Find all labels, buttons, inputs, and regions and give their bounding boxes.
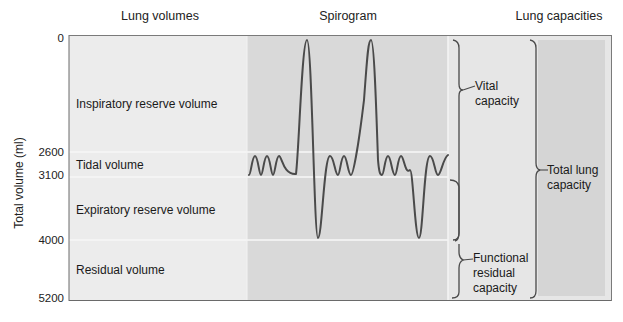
y-tick-5200: 5200 <box>0 292 64 304</box>
vital-capacity-label: Vital capacity <box>475 79 519 109</box>
tlc-line2: capacity <box>547 178 598 193</box>
tidal-volume-label: Tidal volume <box>76 158 144 172</box>
tlc-line1: Total lung <box>547 163 598 178</box>
expiratory-reserve-volume-label: Expiratory reserve volume <box>76 203 215 217</box>
frc-line1: Functional <box>473 251 528 266</box>
lung-capacities-title: Lung capacities <box>516 9 603 23</box>
y-tick-2600: 2600 <box>0 146 64 158</box>
residual-volume-label: Residual volume <box>76 263 165 277</box>
y-tick-0: 0 <box>0 32 64 44</box>
inspiratory-reserve-volume-label: Inspiratory reserve volume <box>76 97 217 111</box>
y-tick-4000: 4000 <box>0 234 64 246</box>
total-lung-capacity-label: Total lung capacity <box>547 163 598 193</box>
lung-volumes-title: Lung volumes <box>121 9 199 23</box>
functional-residual-capacity-label: Functional residual capacity <box>473 251 528 296</box>
vital-capacity-line2: capacity <box>475 94 519 109</box>
spirogram-title: Spirogram <box>319 9 377 23</box>
frc-line3: capacity <box>473 281 528 296</box>
y-tick-3100: 3100 <box>0 169 64 181</box>
vital-capacity-line1: Vital <box>475 79 519 94</box>
y-axis-label: Total volume (ml) <box>12 128 26 238</box>
frc-line2: residual <box>473 266 528 281</box>
